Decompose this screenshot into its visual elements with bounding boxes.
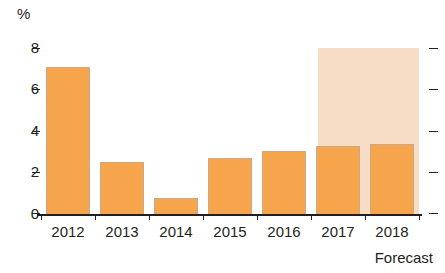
x-label-2017: 2017	[311, 222, 365, 242]
x-tick-mark-5	[311, 216, 312, 220]
forecast-annotation-label: Forecast	[375, 249, 433, 267]
bar-2017[interactable]	[316, 146, 360, 215]
y-tick-0: 0	[0, 206, 41, 222]
x-tick-mark-0	[41, 216, 42, 220]
y-tick-mark-6	[32, 89, 40, 90]
y-axis: 8 6 4 2 0	[0, 0, 41, 273]
bar-2012[interactable]	[46, 67, 90, 215]
x-tick-mark-4	[257, 216, 258, 220]
x-label-2015: 2015	[203, 222, 257, 242]
x-tick-mark-6	[365, 216, 366, 220]
bar-2014[interactable]	[154, 198, 198, 215]
right-tick-mark-0	[429, 213, 438, 214]
right-tick-mark-6	[429, 89, 438, 90]
x-axis: 2012 2013 2014 2015 2016 2017 2018	[41, 222, 419, 244]
plot-area	[41, 48, 419, 215]
bar-chart: % 8 6 4 2 0	[0, 0, 445, 273]
right-tick-mark-2	[429, 172, 438, 173]
y-tick-mark-8	[32, 48, 40, 49]
x-tick-mark-1	[95, 216, 96, 220]
x-label-2014: 2014	[149, 222, 203, 242]
x-label-2013: 2013	[95, 222, 149, 242]
y-tick-mark-2	[32, 172, 40, 173]
x-label-2016: 2016	[257, 222, 311, 242]
bars-group	[41, 48, 419, 215]
x-tick-mark-2	[149, 216, 150, 220]
bar-2016[interactable]	[262, 151, 306, 215]
x-tick-mark-3	[203, 216, 204, 220]
x-tick-mark-7	[419, 216, 420, 220]
right-tick-mark-4	[429, 131, 438, 132]
x-label-2018: 2018	[365, 222, 419, 242]
bar-2015[interactable]	[208, 158, 252, 215]
bar-2018[interactable]	[370, 144, 414, 215]
x-label-2012: 2012	[41, 222, 95, 242]
y-tick-mark-4	[32, 131, 40, 132]
right-tick-mark-8	[429, 48, 438, 49]
bar-2013[interactable]	[100, 162, 144, 215]
